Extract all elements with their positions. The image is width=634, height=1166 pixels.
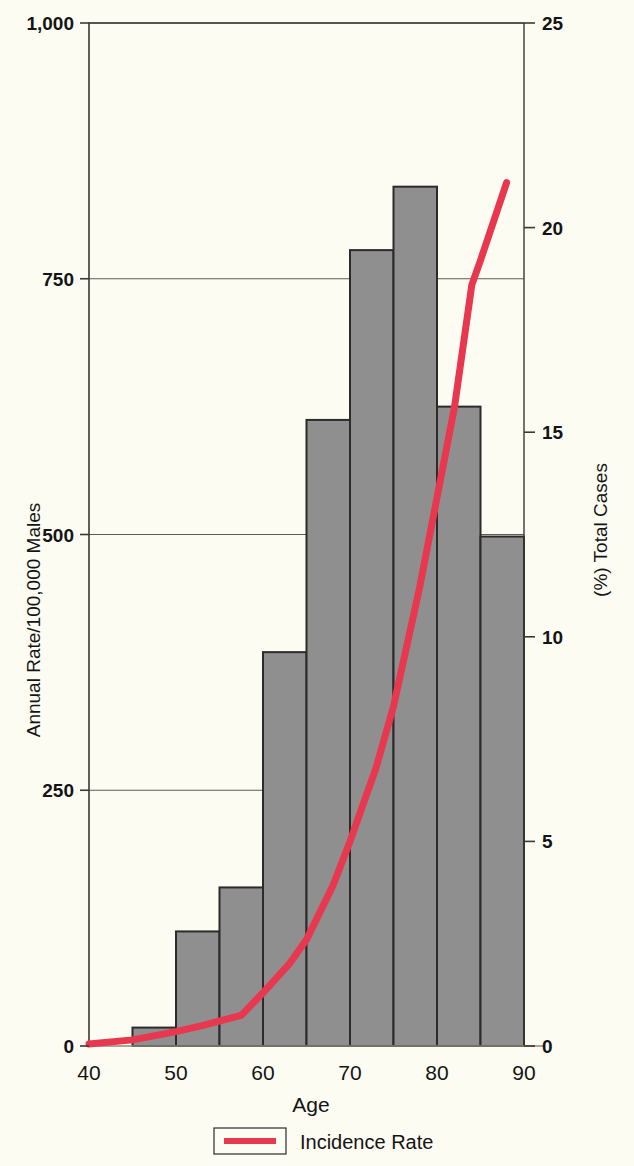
chart-figure: 02505007501,000 0510152025 405060708090 … (0, 0, 634, 1166)
bar (437, 407, 481, 1046)
y2-tick-label: 20 (542, 218, 563, 239)
x-tick-label: 70 (338, 1061, 361, 1084)
y-axis-right-title: (%) Total Cases (590, 463, 611, 597)
y-tick-label: 750 (42, 269, 74, 290)
x-tick-label: 40 (77, 1061, 100, 1084)
x-tick-label: 90 (512, 1061, 535, 1084)
y2-tick-label: 10 (542, 627, 563, 648)
x-tick-label: 50 (164, 1061, 187, 1084)
x-tick-label: 80 (425, 1061, 448, 1084)
bar (307, 420, 351, 1046)
bar (350, 250, 394, 1046)
x-axis-title: Age (292, 1093, 329, 1116)
y2-tick-label: 25 (542, 13, 564, 34)
legend-label-incidence-rate: Incidence Rate (300, 1131, 433, 1153)
y-tick-label: 1,000 (26, 13, 74, 34)
y2-tick-label: 15 (542, 422, 564, 443)
y-axis-left-title: Annual Rate/100,000 Males (23, 503, 44, 738)
y2-tick-label: 5 (542, 831, 553, 852)
y-tick-label: 500 (42, 525, 74, 546)
bar (481, 537, 525, 1046)
y2-tick-label: 0 (542, 1036, 553, 1057)
y-tick-label: 0 (63, 1036, 74, 1057)
x-tick-label: 60 (251, 1061, 274, 1084)
y-tick-label: 250 (42, 780, 74, 801)
incidence-rate-chart: 02505007501,000 0510152025 405060708090 … (0, 0, 634, 1166)
